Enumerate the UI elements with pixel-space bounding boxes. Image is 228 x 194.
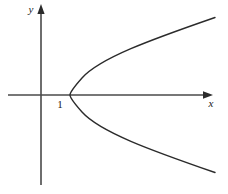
y-axis-arrow-icon	[37, 4, 44, 14]
y-axis-label: y	[28, 3, 34, 15]
x-tick-label-1: 1	[57, 98, 63, 110]
parabola-figure: y x 1	[0, 0, 228, 194]
parabola-plot-canvas: y x 1	[0, 0, 228, 194]
x-axis-label: x	[208, 97, 214, 109]
